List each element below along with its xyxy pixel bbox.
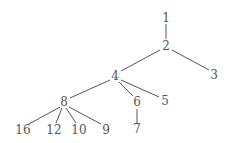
node-9: 9 [102, 123, 110, 137]
edge-8-12 [56, 108, 62, 123]
node-4: 4 [111, 69, 119, 83]
node-6: 6 [133, 95, 141, 109]
node-1: 1 [162, 11, 170, 25]
node-2: 2 [162, 39, 170, 53]
node-10: 10 [71, 123, 86, 137]
node-16: 16 [15, 123, 30, 137]
node-3: 3 [210, 68, 218, 82]
edge-2-4 [121, 50, 160, 71]
node-7: 7 [133, 122, 141, 136]
node-12: 12 [46, 123, 61, 137]
node-5: 5 [161, 94, 169, 108]
edge-2-3 [172, 50, 209, 70]
edge-8-9 [69, 107, 101, 124]
tree-diagram: 123456789101216 [0, 0, 232, 143]
tree-nodes: 123456789101216 [15, 11, 217, 137]
node-8: 8 [60, 95, 68, 109]
edge-8-16 [29, 107, 60, 124]
edge-4-8 [70, 80, 110, 98]
tree-edges [29, 24, 209, 124]
